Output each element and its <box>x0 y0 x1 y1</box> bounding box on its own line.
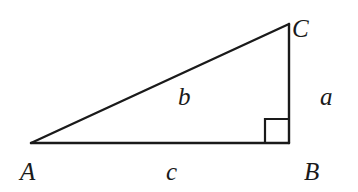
triangle-diagram: C A B a b c <box>0 0 358 192</box>
vertex-label-c: C <box>292 15 309 42</box>
side-label-b: b <box>178 83 191 110</box>
side-label-a: a <box>320 83 333 110</box>
vertex-label-b: B <box>304 158 319 185</box>
side-label-c: c <box>166 158 177 185</box>
vertex-label-a: A <box>18 158 36 185</box>
side-b-hypotenuse-line <box>31 24 289 143</box>
right-angle-marker <box>265 119 289 143</box>
